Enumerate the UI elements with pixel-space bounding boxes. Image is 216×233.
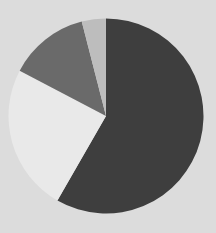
- pie-slices: [8, 19, 203, 214]
- chart-canvas: [0, 0, 216, 233]
- pie-chart: [0, 0, 216, 233]
